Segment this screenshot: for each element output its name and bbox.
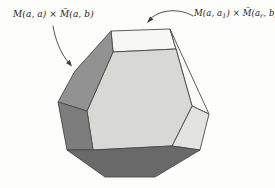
face-bottom-hexagon — [67, 146, 200, 177]
label-text: M(a, a — [194, 8, 222, 18]
face-top-square — [111, 29, 176, 52]
polyhedron-svg — [0, 0, 275, 188]
diagram-page: M(a, a) × M̃(a, b) M(a, a1) × M̃(ar, b) — [0, 0, 275, 188]
label-text: M(a, a) × M̃(a, b) — [13, 9, 94, 19]
arrow-to-top-face-shaft — [150, 11, 193, 19]
label-left-face-product: M(a, a) × M̃(a, b) — [13, 9, 94, 20]
label-top-face-product: M(a, a1) × M̃(ar, b) — [194, 8, 275, 22]
label-text: , b) — [263, 8, 275, 18]
label-text: ) × M̃(a — [226, 8, 260, 18]
arrow-to-left-face-shaft — [53, 26, 69, 63]
